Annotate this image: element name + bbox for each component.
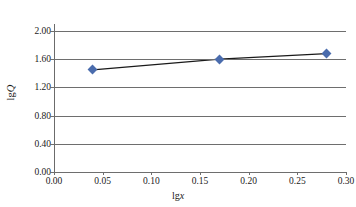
x-axis-title-prefix: lg — [172, 190, 180, 201]
x-axis-tick — [297, 172, 298, 175]
x-axis-tick-label: 0.20 — [229, 176, 269, 187]
x-axis-title-variable: x — [180, 190, 184, 201]
series-line — [54, 31, 346, 172]
plot-area — [54, 31, 346, 172]
y-axis-tick-label: 1.60 — [18, 54, 51, 64]
x-axis-tick-label: 0.05 — [83, 176, 123, 187]
x-axis-tick — [103, 172, 104, 175]
x-axis-tick-label: 0.15 — [180, 176, 220, 187]
y-axis-title-prefix: lg — [5, 92, 16, 100]
gridline — [54, 116, 346, 117]
gridline — [54, 31, 346, 32]
gridline — [54, 144, 346, 145]
y-axis-tick-label: 2.00 — [18, 26, 51, 36]
chart-container: lgQ 0.000.400.801.201.602.00 lgx 0.000.0… — [0, 0, 356, 207]
series-polyline — [93, 54, 327, 70]
y-axis-tick-label: 1.20 — [18, 82, 51, 92]
x-axis-tick — [200, 172, 201, 175]
y-axis-tick — [50, 31, 54, 32]
y-axis-title-variable: Q — [5, 84, 16, 92]
x-axis-tick — [151, 172, 152, 175]
x-axis-tick — [249, 172, 250, 175]
y-axis-tick — [50, 59, 54, 60]
x-axis-tick-label: 0.25 — [277, 176, 317, 187]
x-axis-tick-label: 0.10 — [131, 176, 171, 187]
y-axis-tick-label: 0.80 — [18, 111, 51, 121]
x-axis-tick-label: 0.30 — [326, 176, 356, 187]
x-axis-tick-label: 0.00 — [34, 176, 74, 187]
y-axis-tick — [50, 116, 54, 117]
x-axis-title: lgx — [0, 190, 356, 201]
y-axis-tick-label: 0.40 — [18, 139, 51, 149]
gridline — [54, 87, 346, 88]
y-axis-tick — [50, 87, 54, 88]
x-axis-tick — [54, 172, 55, 175]
y-axis-tick — [50, 144, 54, 145]
gridline — [54, 59, 346, 60]
x-axis-tick — [346, 172, 347, 175]
